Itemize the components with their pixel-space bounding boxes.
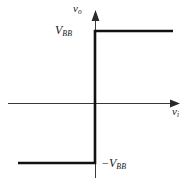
transfer-curve: [18, 31, 173, 163]
x-axis-label-subscript: i: [177, 111, 179, 119]
y-axis-label: vo: [73, 3, 82, 14]
transfer-characteristic-figure: vo vi VBB −VBB: [0, 0, 193, 194]
x-axis-label: vi: [172, 106, 179, 117]
upper-level-label: VBB: [55, 24, 72, 36]
y-axis-arrowhead: [92, 10, 100, 21]
lower-level-sign: −: [102, 156, 109, 170]
y-axis-label-subscript: o: [78, 8, 82, 16]
upper-level-subscript: BB: [62, 29, 72, 38]
lower-level-label: −VBB: [102, 157, 126, 169]
plot-canvas: [0, 0, 193, 194]
lower-level-subscript: BB: [116, 162, 126, 171]
